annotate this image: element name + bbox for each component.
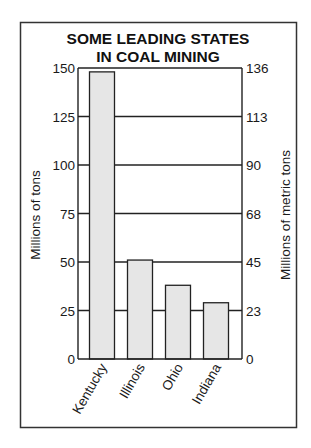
y-tick-right-45: 45 <box>246 255 261 270</box>
y-tick-right-113: 113 <box>246 110 268 125</box>
y-tick-right-136: 136 <box>246 61 269 76</box>
y-tick-left-50: 50 <box>60 255 75 270</box>
bar-ohio <box>166 285 191 359</box>
y-axis-label-left: Millions of tons <box>28 170 43 260</box>
chart-frame <box>21 23 297 428</box>
bar-kentucky <box>90 72 115 359</box>
x-tick-ohio: Ohio <box>159 361 186 393</box>
y-tick-right-0: 0 <box>246 352 254 367</box>
chart-title-line-2: IN COAL MINING <box>96 48 220 65</box>
x-tick-illinois: Illinois <box>116 361 148 401</box>
bars <box>90 72 229 359</box>
y-tick-right-90: 90 <box>246 158 261 173</box>
y-tick-left-150: 150 <box>52 61 75 76</box>
y-tick-right-23: 23 <box>246 304 261 319</box>
y-tick-left-0: 0 <box>67 352 75 367</box>
bar-indiana <box>204 303 229 359</box>
y-tick-right-68: 68 <box>246 207 261 222</box>
y-axis-label-right: Millions of metric tons <box>278 150 293 280</box>
bar-illinois <box>128 260 153 359</box>
y-tick-left-25: 25 <box>60 304 75 319</box>
y-tick-left-125: 125 <box>52 110 75 125</box>
y-tick-left-100: 100 <box>52 158 75 173</box>
chart: SOME LEADING STATES IN COAL MINING 00252… <box>0 0 311 448</box>
y-tick-left-75: 75 <box>60 207 75 222</box>
x-tick-indiana: Indiana <box>189 361 224 407</box>
category-labels: KentuckyIllinoisOhioIndiana <box>69 361 224 417</box>
chart-title-line-1: SOME LEADING STATES <box>67 30 250 47</box>
x-tick-kentucky: Kentucky <box>69 361 110 417</box>
